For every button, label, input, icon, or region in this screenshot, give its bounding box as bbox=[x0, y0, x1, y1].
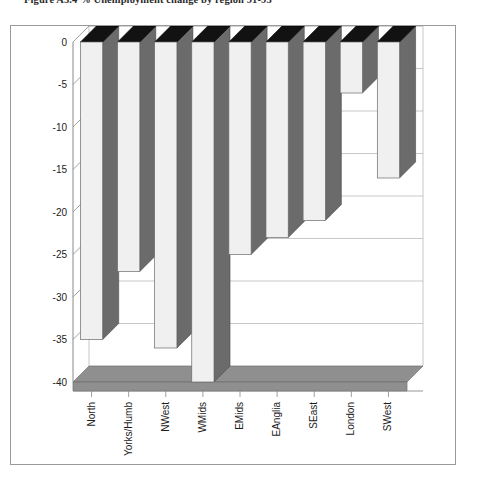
chart-frame: 0-5-10-15-20-25-30-35-40NorthYorks/HumbN… bbox=[10, 25, 456, 465]
y-axis-tick-label: -35 bbox=[53, 334, 68, 345]
bar-front-face bbox=[155, 42, 177, 348]
x-axis-category-label: Yorks/Humb bbox=[123, 402, 134, 457]
bar bbox=[303, 26, 341, 221]
figure-caption: Figure A3.4 % Unemployment change by reg… bbox=[24, 0, 484, 6]
bar-side-face bbox=[140, 26, 156, 272]
bar bbox=[80, 26, 118, 340]
y-axis-tick-label: 0 bbox=[61, 37, 67, 48]
bar-side-face bbox=[177, 26, 193, 348]
y-axis-tick-label: -10 bbox=[53, 122, 68, 133]
x-axis-category-label: WMids bbox=[197, 402, 208, 433]
bar-side-face bbox=[214, 26, 230, 382]
bar-front-face bbox=[340, 42, 362, 93]
floor-front bbox=[73, 382, 407, 391]
x-axis-category-label: SWest bbox=[382, 402, 393, 431]
y-axis-tick-label: -30 bbox=[53, 292, 68, 303]
chart-plot-area: 0-5-10-15-20-25-30-35-40NorthYorks/HumbN… bbox=[11, 26, 457, 466]
x-axis-labels: NorthYorks/HumbNWestWMidsEMidsEAngliaSEa… bbox=[73, 391, 423, 456]
bar-front-face bbox=[118, 42, 140, 272]
y-axis-tick-label: -40 bbox=[53, 377, 68, 388]
bar-side-face bbox=[288, 26, 304, 238]
y-axis-tick-label: -20 bbox=[53, 207, 68, 218]
bar bbox=[118, 26, 156, 272]
bar-front-face bbox=[377, 42, 399, 178]
bar-front-face bbox=[229, 42, 251, 255]
x-axis-category-label: SEast bbox=[308, 402, 319, 429]
bar bbox=[192, 26, 230, 382]
x-axis-category-label: London bbox=[345, 402, 356, 435]
bar bbox=[229, 26, 267, 255]
bar-front-face bbox=[192, 42, 214, 382]
bar-front-face bbox=[303, 42, 325, 221]
bar-side-face bbox=[325, 26, 341, 221]
bar-side-face bbox=[251, 26, 267, 255]
y-axis-tick-label: -15 bbox=[53, 164, 68, 175]
floor-plane bbox=[73, 366, 423, 382]
chart-floor bbox=[73, 366, 423, 391]
bar-chart-3d: 0-5-10-15-20-25-30-35-40NorthYorks/HumbN… bbox=[11, 26, 457, 466]
bar bbox=[377, 26, 415, 178]
bar-series bbox=[80, 26, 415, 382]
x-axis-category-label: EAnglia bbox=[271, 402, 282, 437]
y-axis-tick-label: -5 bbox=[58, 79, 67, 90]
x-axis-category-label: EMids bbox=[234, 402, 245, 430]
x-axis-category-label: NWest bbox=[160, 402, 171, 432]
bar bbox=[155, 26, 193, 348]
bar bbox=[266, 26, 304, 238]
x-axis-category-label: North bbox=[86, 402, 97, 426]
bar-side-face bbox=[103, 26, 119, 340]
y-axis-tick-label: -25 bbox=[53, 249, 68, 260]
bar-front-face bbox=[80, 42, 102, 340]
bar-front-face bbox=[266, 42, 288, 238]
bar-side-face bbox=[400, 26, 416, 178]
bar bbox=[340, 26, 378, 93]
